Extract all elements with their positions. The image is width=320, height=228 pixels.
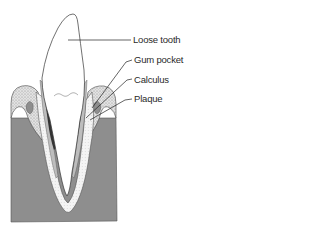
- label-loose-tooth: Loose tooth: [133, 34, 180, 45]
- label-calculus: Calculus: [134, 74, 169, 85]
- label-gum-pocket: Gum pocket: [134, 54, 183, 65]
- label-plaque: Plaque: [134, 93, 162, 104]
